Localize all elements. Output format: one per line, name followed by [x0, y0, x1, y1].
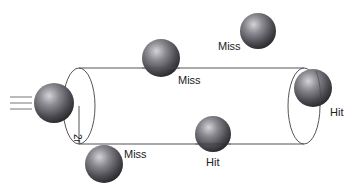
collision-cylinder-diagram: 2r Miss Miss Hit Hit Miss: [0, 0, 356, 193]
moving-sphere: [34, 83, 74, 123]
label-hit-bottom: Hit: [206, 156, 219, 168]
label-miss-top-right: Miss: [218, 40, 241, 52]
label-miss-top-center: Miss: [178, 74, 201, 86]
motion-lines-icon: [10, 97, 32, 109]
sphere-hit-bottom: [195, 116, 231, 152]
sphere-miss-bottom-left: [85, 145, 123, 183]
radius-label: 2r: [72, 134, 83, 144]
sphere-miss-top-center: [142, 39, 180, 77]
sphere-miss-top-right: [240, 13, 276, 49]
sphere-hit-right: [294, 69, 332, 107]
label-miss-bottom-left: Miss: [124, 148, 147, 160]
label-hit-right: Hit: [330, 106, 343, 118]
